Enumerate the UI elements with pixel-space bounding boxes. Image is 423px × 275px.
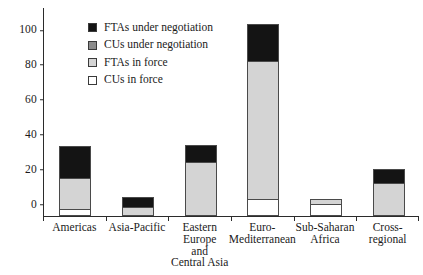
bar-segment: [247, 61, 279, 199]
bar-segment: [247, 24, 279, 61]
legend-item: CUs under negotiation: [88, 39, 213, 52]
x-axis-tick-mark: [294, 217, 295, 221]
legend-item: FTAs under negotiation: [88, 21, 213, 34]
bar-segment: [59, 209, 91, 216]
bar-chart: 020406080100120 FTAs under negotiationCU…: [0, 0, 423, 275]
chart-legend: FTAs under negotiationCUs under negotiat…: [88, 21, 213, 87]
bar-group: [310, 199, 342, 216]
y-axis-tick: 40: [25, 129, 44, 141]
legend-swatch-filled-black: [88, 23, 97, 32]
x-axis-label-line: Africa: [296, 234, 355, 246]
bar-segment: [373, 169, 405, 183]
y-axis-tick: 80: [25, 59, 44, 71]
legend-item-label: CUs in force: [104, 74, 163, 86]
legend-item: FTAs in force: [88, 56, 213, 69]
bar-segment: [122, 207, 154, 216]
bar-group: [59, 146, 91, 216]
x-axis-tick-mark: [356, 217, 357, 221]
x-axis-label-line: Europe: [171, 234, 228, 246]
bar-group: [373, 169, 405, 216]
y-axis-tick-label: 100: [19, 25, 40, 37]
bar-segment: [185, 162, 217, 216]
y-axis-tick-label: 0: [31, 199, 40, 211]
bar-segment: [373, 183, 405, 216]
x-axis-tick-mark: [231, 217, 232, 221]
bar-segment: [122, 197, 154, 207]
x-axis-tick-mark: [43, 217, 44, 221]
legend-swatch-dark-gray: [88, 41, 97, 50]
x-axis-label-line: Central Asia: [171, 257, 228, 269]
x-axis-tick-label: EasternEuropeandCentral Asia: [171, 222, 228, 269]
y-axis-tick-label: 80: [25, 59, 40, 71]
x-axis-tick-mark: [168, 217, 169, 221]
x-axis-tick-label: Euro-Mediterranean: [229, 222, 296, 246]
x-axis-labels: AmericasAsia-PacificEasternEuropeandCent…: [43, 222, 419, 272]
legend-swatch-light-gray: [88, 58, 97, 67]
bar-segment: [310, 204, 342, 216]
bar-segment: [185, 145, 217, 162]
legend-swatch-white: [88, 76, 97, 85]
y-axis-tick: 120: [19, 0, 44, 1]
bar-group: [185, 145, 217, 216]
y-axis-tick: 0: [31, 199, 44, 211]
legend-item-label: FTAs in force: [104, 57, 168, 69]
x-axis-tick-label: Americas: [52, 222, 96, 234]
legend-item: CUs in force: [88, 74, 213, 87]
bar-group: [122, 197, 154, 216]
bar-segment: [247, 199, 279, 216]
y-axis-tick: 100: [19, 25, 44, 37]
bar-segment: [59, 178, 91, 209]
x-axis-label-line: Mediterranean: [229, 234, 296, 246]
x-axis-tick-label: Cross-regional: [369, 222, 407, 246]
y-axis-tick-label: 40: [25, 129, 40, 141]
bar-group: [247, 24, 279, 216]
y-axis-tick-label: 120: [19, 0, 40, 1]
plot-area: 020406080100120 FTAs under negotiationCU…: [43, 8, 419, 217]
x-axis-tick-mark: [418, 217, 419, 221]
x-axis-tick-mark: [106, 217, 107, 221]
y-axis-tick: 60: [25, 94, 44, 106]
y-axis-tick-label: 60: [25, 94, 40, 106]
legend-item-label: FTAs under negotiation: [104, 22, 213, 34]
x-axis-label-line: Americas: [52, 222, 96, 234]
y-axis-tick-label: 20: [25, 164, 40, 176]
legend-item-label: CUs under negotiation: [104, 39, 208, 51]
x-axis-label-line: Asia-Pacific: [109, 222, 166, 234]
bar-segment: [59, 146, 91, 177]
y-axis-tick: 20: [25, 164, 44, 176]
x-axis-tick-label: Sub-SaharanAfrica: [296, 222, 355, 246]
x-axis-tick-label: Asia-Pacific: [109, 222, 166, 234]
x-axis-label-line: regional: [369, 234, 407, 246]
